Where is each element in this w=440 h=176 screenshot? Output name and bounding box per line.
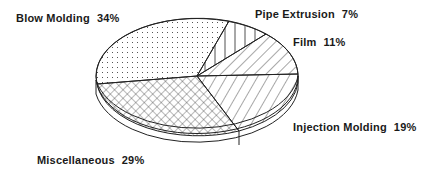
label-injection-molding-name: Injection Molding	[293, 121, 387, 133]
label-blow-molding: Blow Molding34%	[16, 12, 120, 24]
label-miscellaneous-name: Miscellaneous	[37, 154, 115, 166]
label-blow-molding-pct: 34%	[97, 12, 120, 24]
label-injection-molding: Injection Molding19%	[293, 121, 416, 133]
label-pipe-extrusion-name: Pipe Extrusion	[255, 8, 335, 20]
label-film-name: Film	[293, 36, 316, 48]
label-miscellaneous-pct: 29%	[122, 154, 145, 166]
label-blow-molding-name: Blow Molding	[16, 12, 90, 24]
label-injection-molding-pct: 19%	[394, 121, 417, 133]
label-film-pct: 11%	[323, 36, 345, 48]
label-miscellaneous: Miscellaneous29%	[37, 154, 144, 166]
label-film: Film11%	[293, 36, 345, 48]
label-pipe-extrusion: Pipe Extrusion7%	[255, 8, 358, 20]
label-pipe-extrusion-pct: 7%	[342, 8, 358, 20]
pie-top-face	[96, 18, 298, 136]
pie-chart	[0, 0, 440, 176]
